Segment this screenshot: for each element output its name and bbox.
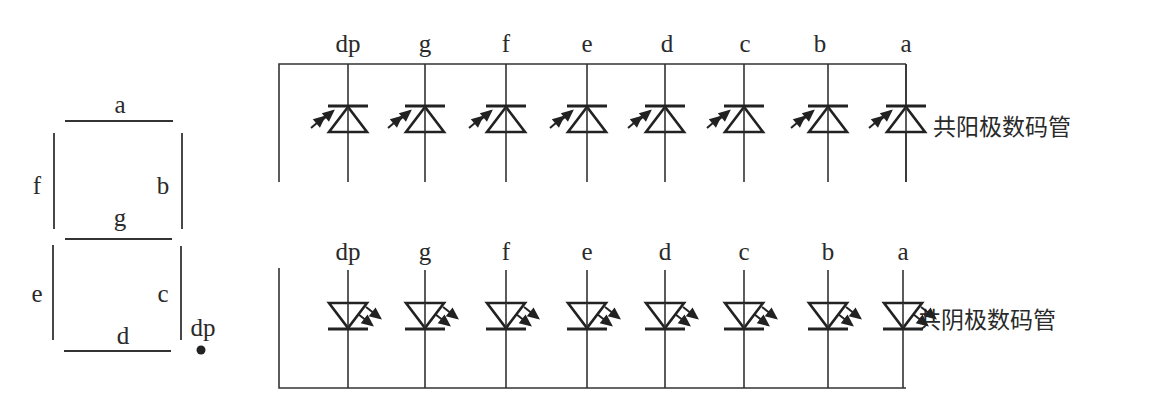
seven-segment-diagram: a b c d e f g dp [31,91,215,355]
anode-pin-label: d [661,30,674,57]
anode-led-g [388,64,445,182]
light-in-arrows-icon [311,111,333,128]
segment-label-e: e [31,280,42,307]
segment-dp-dot [197,346,206,355]
anode-pin-label: f [502,30,511,57]
common-anode-title: 共阳极数码管 [933,114,1071,140]
segment-label-g: g [114,204,127,231]
anode-pin-label: e [581,30,592,57]
cathode-pin-label: b [822,238,835,265]
anode-pin-label: dp [336,30,361,57]
cathode-led-c [724,270,776,388]
cathode-pin-label: c [738,238,749,265]
cathode-led-e [567,270,619,388]
segment-label-b: b [157,172,170,199]
cathode-pin-label: e [581,238,592,265]
light-in-arrows-icon [628,111,650,128]
led-display-diagram: a b c d e f g dp 共阳极数码管 共阴极数码管 dp g f e … [0,0,1154,418]
common-cathode-title: 共阴极数码管 [918,307,1056,333]
anode-led-d [628,64,685,182]
light-in-arrows-icon [869,111,891,128]
light-in-arrows-icon [550,111,572,128]
cathode-pin-label: g [419,238,432,265]
light-in-arrows-icon [707,111,729,128]
anode-led-array [311,64,926,182]
cathode-led-g [405,270,457,388]
light-in-arrows-icon [388,111,410,128]
segment-label-c: c [157,280,168,307]
anode-led-dp [311,64,368,182]
cathode-pin-labels: dp g f e d c b a [336,238,909,265]
cathode-pin-label: f [502,238,511,265]
cathode-led-d [645,270,697,388]
cathode-led-f [486,270,538,388]
cathode-led-b [808,270,860,388]
cathode-led-array [328,270,935,388]
cathode-pin-label: a [897,238,908,265]
light-in-arrows-icon [791,111,813,128]
anode-led-f [469,64,526,182]
segment-label-a: a [114,91,125,118]
anode-led-e [550,64,607,182]
cathode-led-dp [328,270,380,388]
light-in-arrows-icon [469,111,491,128]
segment-label-f: f [33,172,42,199]
cathode-pin-label: dp [336,238,361,265]
anode-pin-label: b [814,30,827,57]
anode-pin-labels: dp g f e d c b a [336,30,912,57]
anode-pin-label: c [739,30,750,57]
segment-label-d: d [117,322,130,349]
anode-led-a [869,64,926,182]
anode-pin-label: a [900,30,911,57]
segment-label-dp: dp [191,314,216,341]
cathode-pin-label: d [659,238,672,265]
anode-led-c [707,64,764,182]
anode-pin-label: g [419,30,432,57]
anode-led-b [791,64,848,182]
